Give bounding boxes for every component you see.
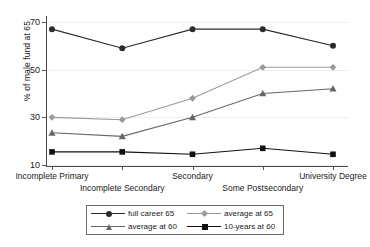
legend-marker-diamond-icon [201,210,208,217]
line-chart: % of male fund at 65 10305070 Incomplete… [0,0,370,247]
legend-swatch [91,222,125,231]
data-point-diamond [189,95,196,102]
data-point-square [119,149,125,155]
legend-marker-triangle-icon [106,224,112,230]
legend-label: average at 65 [224,210,273,218]
data-point-circle [119,45,125,51]
data-point-diamond [259,64,266,71]
series-full-career-65 [49,26,336,51]
data-point-circle [190,26,196,32]
legend-label: average at 60 [128,223,177,231]
legend-marker-square-icon [202,224,208,230]
series-average-at-60 [48,85,336,139]
series-line [52,67,333,119]
x-tick-label: Some Postsecondary [222,184,303,193]
data-point-square [330,151,336,157]
legend-entry[interactable]: full career 65 [89,209,185,218]
legend-label: full career 65 [128,210,174,218]
legend-entry[interactable]: 10-years at 60 [185,222,281,231]
data-point-diamond [49,114,56,121]
x-tick-label: Incomplete Primary [15,172,88,181]
data-point-triangle [329,85,336,91]
chart-legend: full career 65average at 65average at 60… [86,205,284,235]
legend-entry[interactable]: average at 65 [185,209,281,218]
data-point-circle [49,26,55,32]
legend-entry[interactable]: average at 60 [89,222,185,231]
legend-swatch [187,209,221,218]
data-point-square [260,146,266,152]
legend-marker-circle-icon [106,211,112,217]
x-tick-label: Secondary [172,172,213,181]
data-point-square [190,151,196,157]
x-tick-label: Incomplete Secondary [80,184,165,193]
legend-swatch [187,222,221,231]
x-tick-label: University Degree [299,172,367,181]
legend-label: 10-years at 60 [224,223,275,231]
data-point-diamond [119,116,126,123]
series-10-years-at-60 [49,146,336,158]
data-point-diamond [330,64,337,71]
data-point-circle [330,43,336,49]
legend-swatch [91,209,125,218]
data-point-circle [260,26,266,32]
data-point-square [49,149,55,155]
